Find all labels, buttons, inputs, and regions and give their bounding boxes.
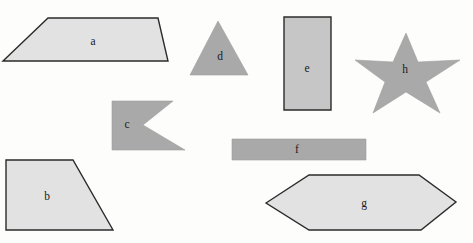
polygon-figure: a b c d e f g h <box>0 0 473 243</box>
shape-label-g: g <box>361 197 367 210</box>
shape-group-f: f <box>232 139 366 160</box>
shape-label-d: d <box>217 50 223 62</box>
shape-f-rectangle <box>232 139 366 160</box>
shape-label-f: f <box>295 143 299 155</box>
shape-label-b: b <box>44 190 50 202</box>
shape-group-e: e <box>284 17 331 110</box>
shape-label-h: h <box>402 63 408 75</box>
shapes-canvas: a b c d e f g h <box>0 0 473 243</box>
shape-label-e: e <box>304 62 309 74</box>
shape-label-c: c <box>124 118 129 130</box>
shape-label-a: a <box>90 35 95 47</box>
